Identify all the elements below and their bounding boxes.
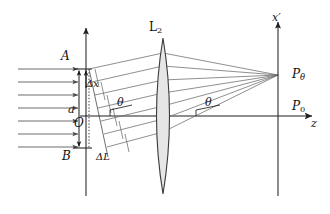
label-point-p-theta: Pθ xyxy=(292,68,305,81)
label-point-p-zero: P0 xyxy=(292,100,305,113)
figure-root: A B a O Δx ΔL L2 θ θ x′ z Pθ P0 xyxy=(0,0,330,214)
p-zero-letter: P xyxy=(292,99,300,113)
label-aperture-top: A xyxy=(61,50,70,62)
label-aperture-bottom: B xyxy=(62,150,71,162)
converging-rays-to-focus xyxy=(163,53,278,132)
label-lens-l2: L2 xyxy=(149,21,162,34)
label-theta-right: θ xyxy=(205,97,212,108)
label-delta-x: Δx xyxy=(86,79,99,89)
label-aperture-width: a xyxy=(68,104,75,115)
p-theta-letter: P xyxy=(292,67,300,81)
lens-l2 xyxy=(157,38,170,194)
lens-label-letter: L xyxy=(149,20,157,34)
label-theta-left: θ xyxy=(117,97,124,108)
p-zero-subscript: 0 xyxy=(300,104,305,114)
optical-diagram-svg xyxy=(0,0,330,214)
incident-tilted-rays xyxy=(89,53,163,147)
wavefront-cross-segments xyxy=(95,69,129,152)
label-delta-l: ΔL xyxy=(96,152,110,162)
label-origin: O xyxy=(74,117,84,129)
p-theta-subscript: θ xyxy=(300,72,305,82)
lens-label-subscript: 2 xyxy=(157,25,162,35)
label-axis-z: z xyxy=(311,118,317,129)
label-axis-x-prime: x′ xyxy=(272,12,281,23)
